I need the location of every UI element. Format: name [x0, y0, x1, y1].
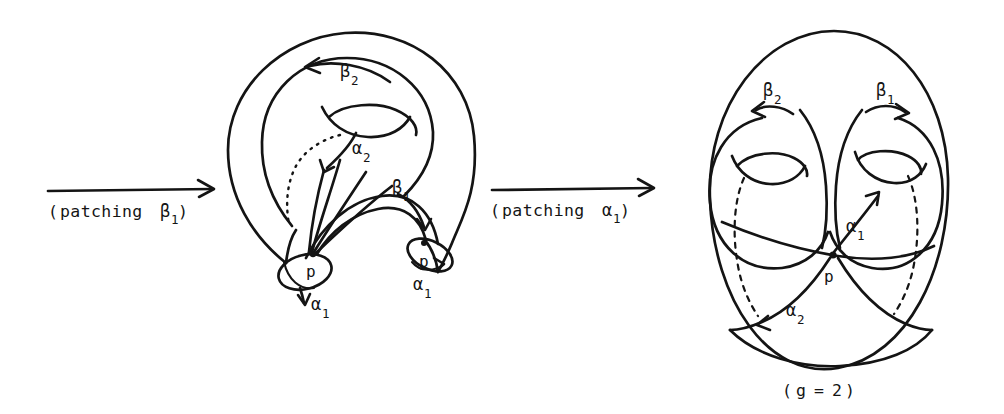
right-right-hidden-dashed-arc — [894, 176, 917, 314]
right-beta1-symbol: β — [876, 80, 886, 100]
right-right-handle-loop-outer — [830, 118, 943, 269]
arrow-patching-beta1-group: ( patching β 1 ) — [48, 180, 214, 227]
right-beta1-subscript: 1 — [887, 92, 895, 107]
right-bottom-arc — [730, 330, 932, 366]
right-beta2-curve — [756, 107, 793, 114]
middle-right-alpha1-symbol: α — [413, 274, 423, 294]
topology-figure-canvas: ( patching β 1 ) ( patching α 1 ) β 2 α — [0, 0, 1004, 414]
right-basepoint-label: p — [824, 267, 834, 286]
right-left-handle-loop-outer — [709, 118, 828, 268]
middle-arch-inner-edge — [317, 208, 426, 254]
figure-root: ( patching β 1 ) ( patching α 1 ) β 2 α — [0, 0, 1004, 414]
middle-left-basepoint-dot — [310, 251, 316, 257]
middle-beta1-subscript: 1 — [403, 189, 411, 204]
middle-alpha2-subscript: 2 — [363, 150, 371, 165]
middle-left-basepoint-label: p — [306, 262, 316, 281]
right-outer-contour — [710, 31, 948, 369]
middle-right-basepoint-dot — [421, 240, 427, 246]
arrow-patching-beta1-shaft — [48, 189, 212, 191]
arrow-patching-beta1-open-paren: ( — [48, 202, 58, 221]
middle-left-alpha1-symbol: α — [311, 294, 321, 314]
right-basepoint-dot — [829, 251, 836, 258]
arrow-patching-alpha1-group: ( patching α 1 ) — [490, 179, 654, 226]
right-alpha1-subscript: 1 — [857, 228, 865, 243]
right-sweep-curve-horizontal — [722, 222, 934, 259]
middle-bundle-curve-3 — [314, 172, 366, 252]
middle-left-alpha1-subscript: 1 — [322, 306, 330, 321]
right-figure-group: β 2 β 1 α 1 α 2 p — [709, 31, 948, 400]
middle-figure-group: β 2 α 2 β 1 p — [228, 33, 475, 321]
middle-right-boundary-ellipse — [402, 232, 457, 278]
middle-right-alpha1-subscript: 1 — [424, 286, 432, 301]
middle-beta2-symbol: β — [340, 61, 350, 81]
right-beta2-symbol: β — [763, 80, 773, 100]
right-left-hidden-dashed-arc — [735, 178, 758, 316]
middle-beta1-symbol: β — [392, 177, 402, 197]
right-alpha1-symbol: α — [846, 216, 856, 236]
arrow-patching-beta1-word: patching — [60, 202, 143, 221]
right-left-hole-upper-lip — [737, 153, 807, 176]
genus-caption-value: 2 — [832, 381, 842, 400]
right-left-handle-inner-edge — [800, 110, 827, 248]
genus-caption-variable: g — [796, 381, 806, 400]
arrow-patching-alpha1-word: patching — [502, 201, 585, 220]
middle-alpha2-symbol: α — [352, 138, 362, 158]
middle-right-basepoint-label: p — [419, 252, 429, 271]
arrow-patching-beta1-close-paren: ) — [178, 202, 188, 221]
genus-caption-open-paren: ( — [782, 381, 792, 400]
right-alpha2-symbol: α — [786, 300, 796, 320]
arrow-patching-alpha1-open-paren: ( — [490, 201, 500, 220]
genus-caption-equals: = — [814, 381, 824, 400]
arrow-patching-alpha1-shaft — [492, 188, 652, 190]
arrow-patching-alpha1-symbol: α — [602, 200, 612, 220]
middle-beta2-subscript: 2 — [351, 73, 359, 88]
right-alpha2-subscript: 2 — [797, 312, 805, 327]
middle-right-tube-boundary-group: p α 1 — [402, 232, 457, 301]
right-beta2-subscript: 2 — [774, 92, 782, 107]
arrow-patching-beta1-symbol: β — [160, 201, 170, 221]
genus-caption-group: ( g = 2 ) — [782, 381, 855, 400]
arrow-patching-alpha1-close-paren: ) — [620, 201, 630, 220]
right-right-hole-lower-lip — [855, 152, 926, 183]
genus-caption-close-paren: ) — [845, 381, 855, 400]
